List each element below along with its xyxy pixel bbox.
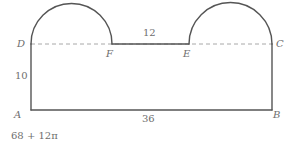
arc-right-semicircle	[189, 3, 272, 44]
answer-expression: 68 + 12π	[11, 131, 58, 141]
measure-label-top: 12	[143, 28, 156, 38]
vertex-label-D: D	[17, 39, 25, 49]
measure-label-bottom: 36	[142, 114, 155, 124]
vertex-label-C: C	[276, 39, 284, 49]
vertex-label-E: E	[183, 49, 190, 59]
measure-label-height: 10	[15, 71, 28, 81]
vertex-label-A: A	[14, 110, 21, 120]
vertex-label-B: B	[273, 110, 280, 120]
arc-left-semicircle	[31, 4, 112, 44]
geometry-figure: D C A B F E 10 12 36 68 + 12π	[0, 0, 294, 149]
vertex-label-F: F	[106, 49, 113, 59]
geometry-drawing	[0, 0, 294, 149]
